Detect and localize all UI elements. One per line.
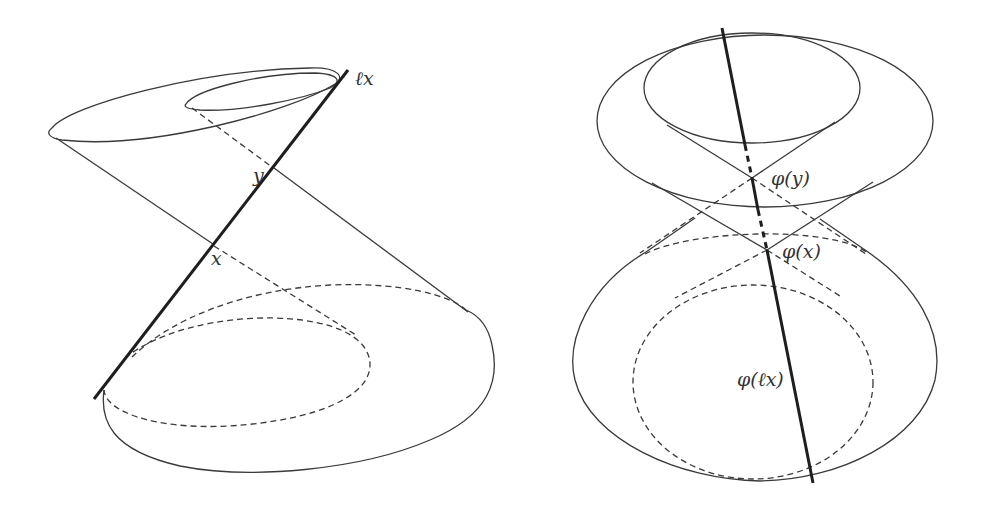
label-ell-x: ℓx (355, 67, 374, 89)
right-figure: φ(y) φ(x) φ(ℓx) (573, 28, 937, 483)
left-generator-top-left (56, 138, 213, 244)
left-figure: ℓx y x (49, 67, 495, 472)
left-generator-y-right (274, 168, 468, 312)
right-axis-bottom-solid (767, 250, 813, 483)
right-axis-mid-solid (752, 178, 758, 210)
right-bottom-large-curve (573, 252, 937, 481)
left-axis-line (94, 70, 348, 399)
label-phi-y: φ(y) (771, 167, 810, 189)
right-upper-cone-left (667, 125, 752, 178)
left-upper-large-ellipse (49, 68, 340, 142)
label-phi-x: φ(x) (782, 240, 821, 262)
left-dashed-from-x (214, 246, 356, 335)
right-upper-large-ellipse (597, 35, 933, 207)
label-y: y (252, 164, 264, 186)
left-bottom-large-curve (103, 310, 494, 472)
diagram-canvas: ℓx y x φ(y) φ(x) (0, 0, 984, 506)
left-upper-small-ellipse (185, 73, 337, 110)
left-bottom-dashed-ellipse-outer (132, 285, 466, 357)
right-lower-left-dashed (675, 250, 767, 298)
right-axis-dashed-upper (745, 145, 752, 178)
right-axis-top-solid (722, 28, 745, 145)
right-mid-left-dashed (640, 178, 752, 253)
label-x: x (211, 247, 222, 269)
right-lower-left-solid (646, 218, 695, 252)
right-mid-left-solid (652, 183, 767, 250)
right-lower-right-solid (820, 219, 868, 252)
right-axis-dashed-lower (758, 210, 767, 250)
left-dashed-to-y (192, 108, 272, 167)
label-phi-ell-x: φ(ℓx) (737, 368, 784, 390)
